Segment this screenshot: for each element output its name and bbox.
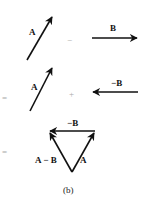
label-a: A [80,155,87,165]
label-neg-b: −B [111,78,122,88]
a-minus-b-arrow [50,133,72,172]
label-a-minus-b: A − B [35,155,57,165]
vector-subtraction-diagram: A − B = A + −B = −B A − B A (b) [0,0,147,202]
equals-sign: = [2,147,7,157]
row1-vector-a: A [27,17,52,60]
label-b: B [110,23,116,33]
minus-operator: − [67,35,72,45]
row2-vector-a: A [30,68,52,111]
plus-operator: + [69,89,74,99]
row1-vector-b: B [92,23,137,38]
equals-sign: = [2,93,7,103]
label-a: A [31,82,38,92]
label-neg-b: −B [67,118,78,128]
row2-vector-neg-b: −B [93,78,138,92]
a-arrow [72,133,94,172]
figure-caption: (b) [63,185,74,195]
triangle-construction: −B A − B A [35,118,95,172]
label-a: A [29,27,36,37]
